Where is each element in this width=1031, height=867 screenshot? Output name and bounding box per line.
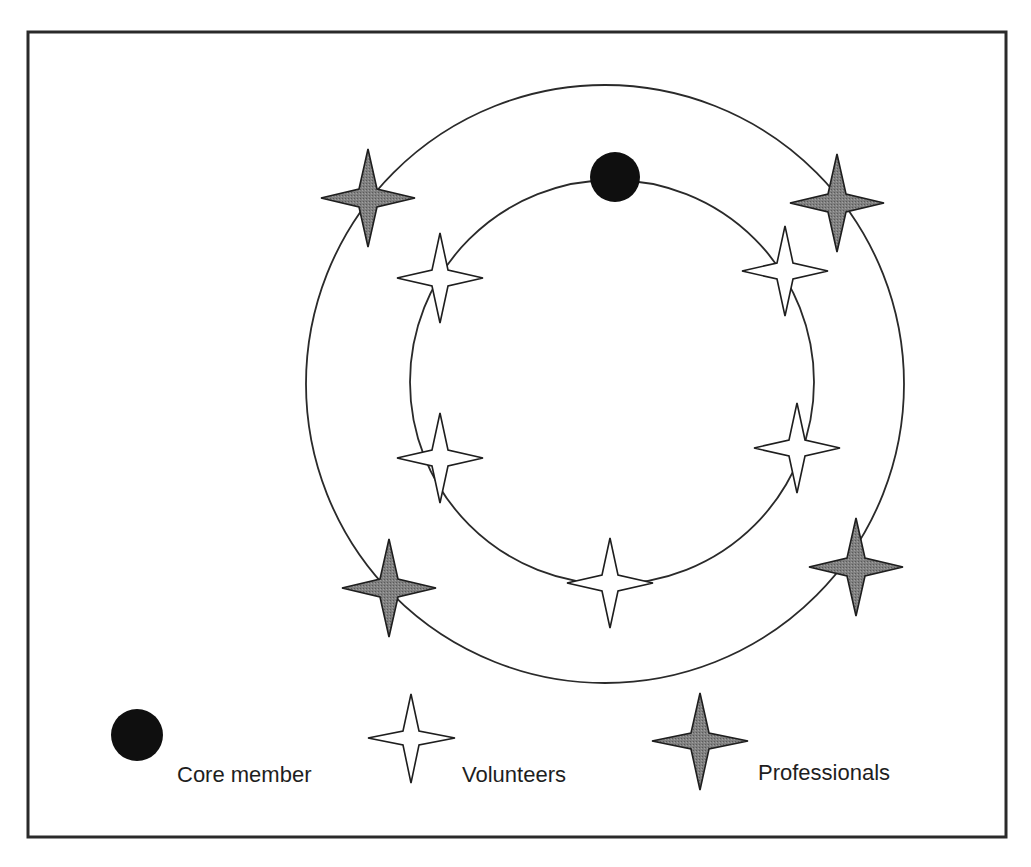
volunteer-star-icon [754, 403, 840, 493]
core-member-nodes [590, 152, 640, 202]
legend-professionals-label: Professionals [758, 762, 890, 784]
core-member-node [590, 152, 640, 202]
inner-ring [410, 180, 814, 584]
professional-star-icon [809, 518, 903, 616]
volunteer-star-icon [567, 538, 653, 628]
professional-star-icon [342, 539, 436, 637]
legend-volunteer-star-icon [368, 694, 455, 783]
diagram-frame [28, 32, 1006, 837]
volunteer-star-icon [397, 413, 483, 503]
professional-star-icon [321, 149, 415, 247]
legend-core-member-label: Core member [177, 764, 311, 786]
legend-professional-star-icon [652, 693, 748, 790]
legend-core-member-icon [111, 709, 163, 761]
professional-star-icon [790, 154, 884, 252]
volunteer-star-icon [397, 233, 483, 323]
volunteer-nodes [397, 226, 840, 628]
community-circles-diagram [0, 0, 1031, 867]
legend-volunteers-label: Volunteers [462, 764, 566, 786]
